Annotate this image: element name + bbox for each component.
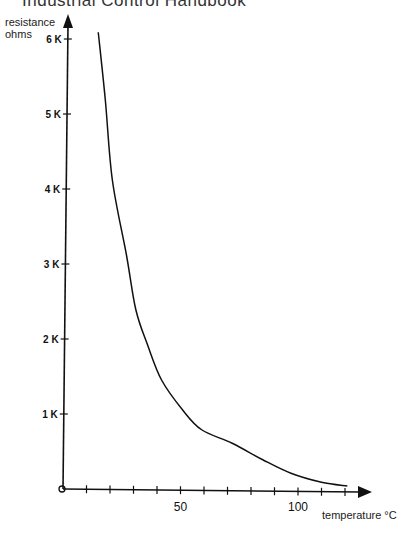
y-tick-label: 4 K bbox=[45, 184, 61, 195]
y-tick-label: 5 K bbox=[45, 109, 61, 120]
y-tick-label: 6 K bbox=[46, 34, 62, 45]
thermistor-chart: 501001 K2 K3 K4 K5 K6 K bbox=[0, 0, 411, 537]
resistance-curve bbox=[98, 32, 347, 486]
x-tick-label: 100 bbox=[288, 500, 308, 514]
y-tick-label: 2 K bbox=[43, 334, 59, 345]
y-axis-line bbox=[63, 24, 68, 489]
y-axis-arrow-icon bbox=[63, 14, 73, 28]
y-tick-label: 1 K bbox=[42, 409, 58, 420]
y-tick-label: 3 K bbox=[44, 259, 60, 270]
ticks: 501001 K2 K3 K4 K5 K6 K bbox=[42, 34, 345, 514]
axes bbox=[59, 14, 372, 498]
x-tick-label: 50 bbox=[174, 500, 188, 514]
x-axis-arrow-icon bbox=[358, 486, 372, 498]
x-axis-line bbox=[63, 489, 360, 492]
